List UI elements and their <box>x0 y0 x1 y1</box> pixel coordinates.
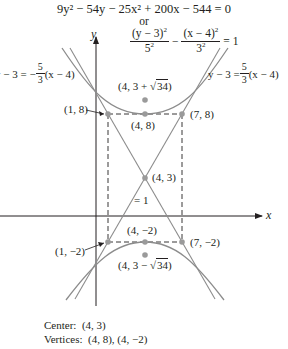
asymptote-left-prefix: y − 3 = − <box>0 68 36 80</box>
center-point <box>142 175 148 181</box>
asymptote-right-fraction: 5 3 <box>240 62 249 85</box>
box-bottom-right-point <box>179 239 185 245</box>
focus-bottom-label: (4, 3 − √34) <box>118 259 172 271</box>
focus-top-label: (4, 3 + √34) <box>118 80 172 92</box>
box-top-left-label: (1, 8) <box>64 103 88 115</box>
box-bottom-right-label: (7, −2) <box>190 236 220 248</box>
pointer-arrows <box>85 110 104 250</box>
stray-equals-one-label: = 1 <box>134 194 148 206</box>
asymptote-left-fraction: 5 3 <box>36 62 45 85</box>
vertex-top-point <box>142 111 148 117</box>
vertices-caption-label: Vertices: <box>44 333 82 345</box>
vertices-caption: Vertices: (4, 8), (4, −2) <box>44 333 147 345</box>
hyperbola-lower-branch <box>66 242 224 300</box>
hyperbola-graph <box>0 0 288 349</box>
asymptote-right-suffix: (x − 4) <box>249 68 279 80</box>
box-bottom-left-label: (1, −2) <box>55 245 85 257</box>
y-axis-label: y <box>91 27 96 42</box>
vertex-bottom-label: (4, −2) <box>127 224 157 236</box>
vertex-bottom-point <box>142 239 148 245</box>
asymptote-left-label: y − 3 = − 5 3 (x − 4) <box>0 62 75 85</box>
focus-bottom-point <box>142 252 148 258</box>
box-top-right-label: (7, 8) <box>190 108 214 120</box>
asymptote-right-label: y − 3 = 5 3 (x − 4) <box>208 62 279 85</box>
x-axis-label: x <box>266 208 271 223</box>
center-caption: Center: (4, 3) <box>44 319 106 331</box>
box-top-right-point <box>179 111 185 117</box>
box-bottom-left-point <box>105 239 111 245</box>
center-caption-value: (4, 3) <box>82 319 106 331</box>
vertex-top-label: (4, 8) <box>131 119 155 131</box>
box-top-left-point <box>105 111 111 117</box>
vertices-caption-value: (4, 8), (4, −2) <box>88 333 147 345</box>
center-label: (4, 3) <box>152 171 176 183</box>
asymptote-left-suffix: (x − 4) <box>45 68 75 80</box>
center-caption-label: Center: <box>44 319 76 331</box>
asymptote-right-prefix: y − 3 = <box>208 68 240 80</box>
focus-top-point <box>142 97 148 103</box>
